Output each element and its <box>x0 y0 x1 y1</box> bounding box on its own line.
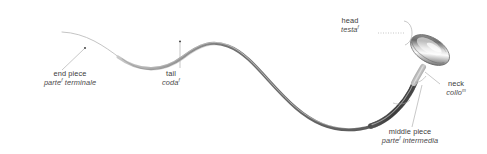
middle-piece-helix-bands <box>371 82 415 126</box>
leader-lines <box>62 21 440 127</box>
label-head: head testaf <box>326 17 374 35</box>
label-middle-piece-italian: partef intermedia <box>362 136 458 146</box>
anchor-dot-tail <box>179 40 181 42</box>
sperm-anatomy-diagram: end piece partef terminale tail codaf he… <box>0 0 487 154</box>
label-middle-piece: middle piece partef intermedia <box>362 128 458 146</box>
gender-superscript: f <box>358 25 359 30</box>
label-end-piece-english: end piece <box>24 70 116 78</box>
label-neck: neck collom <box>436 80 476 98</box>
label-tail-italian: codaf <box>147 78 195 88</box>
label-neck-english: neck <box>436 80 476 88</box>
label-end-piece: end piece partef terminale <box>24 70 116 88</box>
sperm-head <box>405 28 455 71</box>
middle-piece-body <box>371 82 415 126</box>
gender-superscript: m <box>462 88 466 93</box>
label-tail-english: tail <box>147 70 195 78</box>
label-head-english: head <box>326 17 374 25</box>
label-head-italian: testaf <box>326 25 374 35</box>
middle-piece-coil <box>371 81 415 126</box>
leader-end-piece <box>62 49 84 70</box>
label-neck-italian: collom <box>436 88 476 98</box>
label-middle-piece-english: middle piece <box>362 128 458 136</box>
end-piece-segment <box>62 32 120 58</box>
anchor-dot-end-piece <box>84 47 86 49</box>
gender-superscript: f <box>179 78 180 83</box>
label-end-piece-italian: partef terminale <box>24 78 116 88</box>
label-tail: tail codaf <box>147 70 195 88</box>
